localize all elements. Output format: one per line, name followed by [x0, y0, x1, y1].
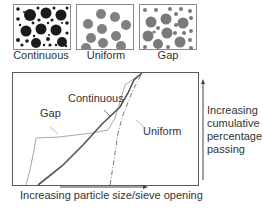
- uniform-curve-label: Uniform: [143, 125, 182, 137]
- y-label-line-1: Increasing: [207, 104, 262, 117]
- x-axis-label: Increasing particle size/sieve opening: [20, 189, 203, 201]
- y-label-line-4: passing: [207, 143, 262, 156]
- y-label-line-3: percentage: [207, 130, 262, 143]
- continuous-curve: [38, 73, 142, 185]
- y-arrowhead-icon: [201, 79, 205, 84]
- continuous-leader-line: [104, 110, 111, 117]
- y-axis-label: Increasing cumulative percentage passing: [207, 104, 262, 156]
- gap-curve-label: Gap: [40, 107, 61, 119]
- gap-curve: [26, 73, 142, 185]
- y-label-line-2: cumulative: [207, 117, 262, 130]
- continuous-curve-label: Continuous: [68, 92, 124, 104]
- gap-leader-line: [50, 127, 58, 134]
- uniform-curve: [110, 73, 142, 185]
